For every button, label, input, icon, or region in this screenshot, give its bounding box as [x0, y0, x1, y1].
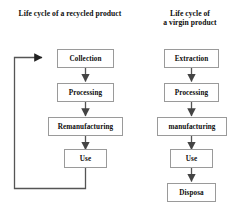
node-disposal[interactable]: Disposa [167, 183, 216, 202]
right-chart-title: Life cycle of a virgin product [140, 9, 240, 28]
left-chart-title: Life cycle of a recycled product [8, 9, 132, 18]
node-use-recycled[interactable]: Use [64, 149, 107, 168]
node-collection-label: Collection [70, 55, 102, 63]
node-extraction[interactable]: Extraction [164, 49, 219, 68]
left-chart-title-line-1: Life cycle of a recycled [19, 9, 94, 18]
node-use-virgin-label: Use [186, 155, 197, 163]
node-use-virgin[interactable]: Use [170, 149, 213, 168]
node-disposal-label: Disposa [179, 189, 204, 197]
left-chart-title-line-2: product [95, 9, 121, 18]
node-manufacturing-label: manufacturing [169, 123, 216, 131]
node-remanufacturing[interactable]: Remanufacturing [48, 117, 123, 136]
node-processing-virgin-label: Processing [175, 89, 208, 97]
node-manufacturing[interactable]: manufacturing [157, 117, 227, 136]
node-processing-virgin[interactable]: Processing [164, 83, 219, 102]
node-processing-recycled-label: Processing [69, 89, 102, 97]
node-use-recycled-label: Use [80, 155, 91, 163]
right-chart-title-line-2: a virgin product [163, 18, 216, 27]
node-collection[interactable]: Collection [57, 49, 114, 68]
right-chart-title-line-1: Life cycle of [170, 9, 210, 18]
lifecycle-diagram: Life cycle of a recycled product Life cy… [0, 0, 246, 216]
node-extraction-label: Extraction [175, 55, 209, 63]
node-remanufacturing-label: Remanufacturing [58, 123, 114, 131]
node-processing-recycled[interactable]: Processing [57, 83, 114, 102]
